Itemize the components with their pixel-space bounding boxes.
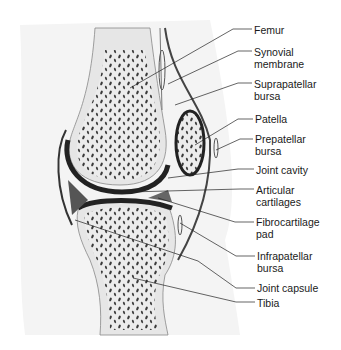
- label-prepatellar-bursa: Prepatellar bursa: [255, 133, 306, 157]
- label-patella: Patella: [255, 113, 287, 125]
- label-synovial-membrane: Synovial membrane: [254, 46, 304, 70]
- label-femur: Femur: [254, 24, 284, 36]
- label-fibrocartilage-pad: Fibrocartilage pad: [256, 216, 320, 240]
- label-suprapatellar-bursa: Suprapatellar bursa: [254, 78, 316, 102]
- label-infrapatellar-bursa: Infrapatellar bursa: [257, 250, 312, 274]
- label-joint-capsule: Joint capsule: [257, 282, 318, 294]
- knee-joint-diagram: Femur Synovial membrane Suprapatellar bu…: [0, 0, 341, 350]
- label-tibia: Tibia: [257, 297, 279, 309]
- label-joint-cavity: Joint cavity: [256, 164, 308, 176]
- label-articular-cartilages: Articular cartilages: [256, 184, 301, 208]
